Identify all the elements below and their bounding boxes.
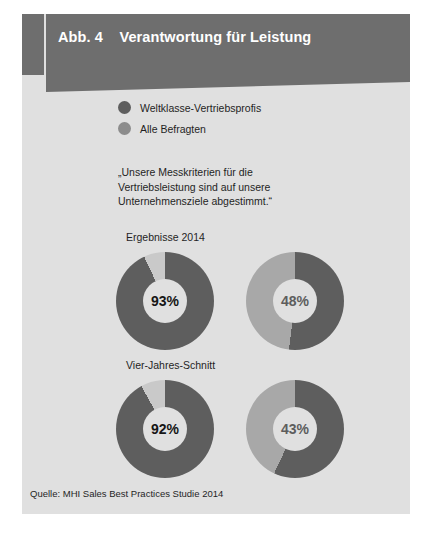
quote-text: „Unsere Messkriterien für die Vertriebsl…: [118, 165, 333, 209]
header-main-band: [46, 14, 410, 92]
donut-center-hole: 48%: [273, 279, 317, 323]
figure-title: Abb. 4 Verantwortung für Leistung: [58, 29, 311, 45]
group-label-ergebnisse-2014: Ergebnisse 2014: [126, 231, 205, 243]
donut-chart-48: 48%: [246, 252, 344, 350]
figure-header-band: [22, 14, 410, 96]
donut-value-label: 92%: [151, 422, 179, 436]
donut-center-hole: 92%: [143, 407, 187, 451]
donut-value-label: 43%: [281, 422, 309, 436]
group-label-vier-jahres-schnitt: Vier-Jahres-Schnitt: [126, 359, 215, 371]
donut-chart-43: 43%: [246, 380, 344, 478]
legend-item-label: Alle Befragten: [140, 123, 206, 135]
source-note: Quelle: MHI Sales Best Practices Studie …: [30, 488, 223, 499]
donut-chart-93: 93%: [116, 252, 214, 350]
figure-container: Abb. 4 Verantwortung für Leistung Weltkl…: [22, 14, 410, 514]
legend-item-world-class: Weltklasse-Vertriebsprofis: [118, 101, 261, 114]
legend-swatch-icon: [118, 122, 131, 135]
donut-center-hole: 93%: [143, 279, 187, 323]
legend: Weltklasse-Vertriebsprofis Alle Befragte…: [118, 101, 261, 143]
donut-center-hole: 43%: [273, 407, 317, 451]
legend-item-label: Weltklasse-Vertriebsprofis: [140, 102, 261, 114]
legend-swatch-icon: [118, 101, 131, 114]
legend-item-all-respondents: Alle Befragten: [118, 122, 261, 135]
donut-chart-92: 92%: [116, 380, 214, 478]
donut-value-label: 48%: [281, 294, 309, 308]
header-left-tab: [22, 14, 44, 75]
donut-value-label: 93%: [151, 294, 179, 308]
